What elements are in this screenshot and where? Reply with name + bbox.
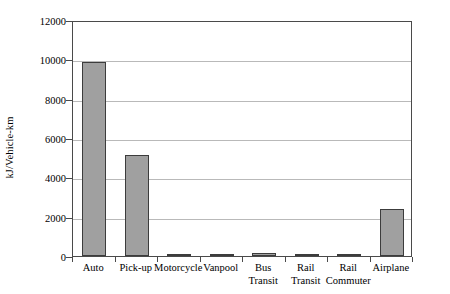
bar[interactable] [167, 254, 191, 256]
bar-slot [286, 22, 329, 256]
x-axis-tick-mark [115, 257, 116, 262]
bar-slot [371, 22, 414, 256]
bar[interactable] [380, 209, 404, 256]
x-axis-tick-label: Airplane [372, 262, 409, 275]
x-axis-tick-label-line1: Pick-up [119, 262, 152, 273]
x-axis-tick-label: RailCommuter [326, 262, 371, 287]
y-axis-tick-label: 6000 [6, 134, 66, 145]
bar-slot [116, 22, 159, 256]
x-axis-tick-label: Pick-up [119, 262, 152, 275]
x-axis-tick-label-line2: Transit [291, 275, 320, 288]
x-axis-tick-mark [285, 257, 286, 262]
y-axis-tick-label: 2000 [6, 212, 66, 223]
y-axis-title: kJ/Vehicle-km [0, 0, 20, 294]
y-axis-tick-label: 12000 [6, 16, 66, 27]
y-axis-tick-label: 0 [6, 252, 66, 263]
bar[interactable] [252, 253, 276, 256]
x-axis-tick-label-line1: Rail [297, 262, 315, 273]
x-axis-tick-label-line1: Rail [339, 262, 357, 273]
bar-slot [158, 22, 201, 256]
x-axis-tick-label-line1: Motorcycle [154, 262, 202, 273]
x-axis-tick-label: Vanpool [203, 262, 238, 275]
gridline [73, 101, 411, 102]
bar-slot [243, 22, 286, 256]
x-axis-tick-label-line1: Auto [83, 262, 104, 273]
bar[interactable] [337, 254, 361, 256]
bar[interactable] [82, 62, 106, 256]
x-axis-tick-label-line2: Commuter [326, 275, 371, 288]
y-axis-title-label: kJ/Vehicle-km [5, 116, 16, 178]
gridline [73, 179, 411, 180]
bar-slot [201, 22, 244, 256]
plot-area [72, 21, 412, 257]
y-axis-tick-label: 4000 [6, 173, 66, 184]
x-axis-tick-mark [72, 257, 73, 262]
x-axis-tick-label: RailTransit [291, 262, 320, 287]
x-axis-tick-mark [242, 257, 243, 262]
x-axis-tick-label-line2: Transit [249, 275, 278, 288]
y-axis-tick-label: 10000 [6, 55, 66, 66]
x-axis-tick-mark [412, 257, 413, 262]
gridline [73, 219, 411, 220]
x-axis-tick-label: Motorcycle [154, 262, 202, 275]
gridline [73, 140, 411, 141]
x-axis-tick-label-line1: Bus [255, 262, 271, 273]
x-axis-tick-label: Auto [83, 262, 104, 275]
y-axis-tick-label: 8000 [6, 94, 66, 105]
bar-slot [328, 22, 371, 256]
bar-chart: kJ/Vehicle-km 02000400060008000100001200… [0, 0, 450, 294]
x-axis-tick-label-line1: Vanpool [203, 262, 238, 273]
x-axis-tick-label: BusTransit [249, 262, 278, 287]
x-axis-tick-label-line1: Airplane [372, 262, 409, 273]
bar[interactable] [210, 254, 234, 256]
bar[interactable] [295, 254, 319, 256]
gridline [73, 61, 411, 62]
bar[interactable] [125, 155, 149, 256]
bar-slot [73, 22, 116, 256]
